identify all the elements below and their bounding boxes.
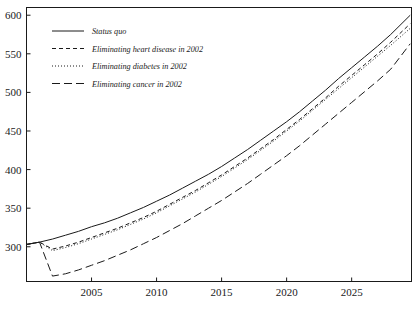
- legend-label-2: Eliminating diabetes in 2002: [91, 62, 187, 71]
- series-line-1: [27, 24, 411, 249]
- legend-label-1: Eliminating heart disease in 2002: [91, 45, 203, 54]
- x-tick-label: 2005: [81, 286, 104, 298]
- y-tick-label: 300: [5, 241, 22, 253]
- plot-frame: [27, 8, 412, 282]
- legend-label-3: Eliminating cancer in 2002: [91, 80, 182, 89]
- x-tick-label: 2010: [146, 286, 169, 298]
- y-tick-label: 400: [5, 164, 22, 176]
- series-line-2: [27, 28, 411, 250]
- x-tick-label: 2020: [276, 286, 299, 298]
- x-tick-label: 2015: [211, 286, 234, 298]
- chart-container: 3003504004505005506002005201020152020202…: [0, 0, 418, 311]
- y-tick-label: 450: [5, 125, 22, 137]
- series-line-3: [27, 44, 411, 276]
- y-tick-label: 600: [5, 9, 22, 21]
- y-tick-label: 500: [5, 86, 22, 98]
- series-line-0: [27, 15, 411, 244]
- line-chart: 3003504004505005506002005201020152020202…: [0, 0, 418, 311]
- legend-label-0: Status quo: [92, 27, 126, 36]
- y-tick-label: 350: [5, 202, 22, 214]
- y-tick-label: 550: [5, 48, 22, 60]
- x-tick-label: 2025: [341, 286, 364, 298]
